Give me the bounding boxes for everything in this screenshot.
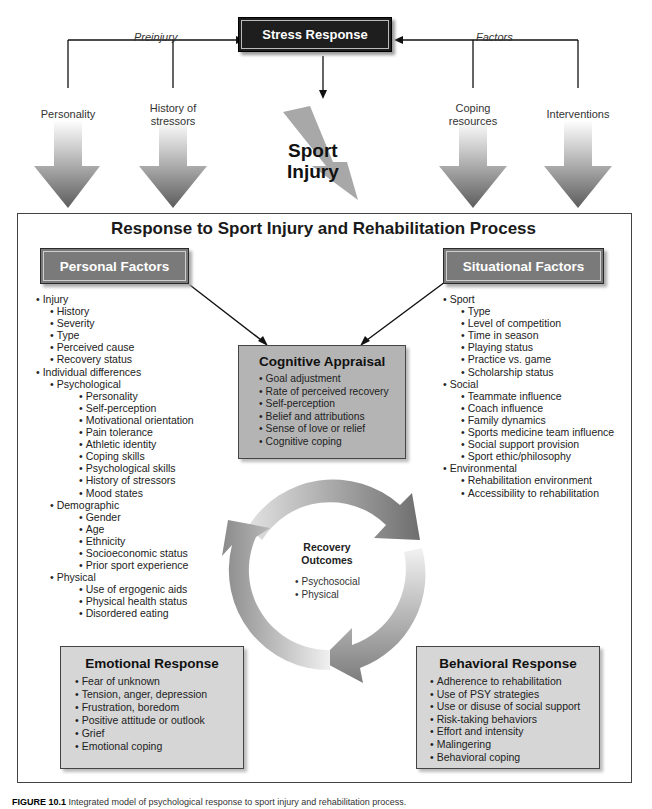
list-item: Type xyxy=(443,305,614,317)
behavioral-response-title: Behavioral Response xyxy=(417,656,599,671)
list-item: Self-perception xyxy=(259,398,405,411)
list-item: Practice vs. game xyxy=(443,353,614,365)
personal-factors-list: InjuryHistorySeverityTypePerceived cause… xyxy=(36,293,194,620)
list-item: Coping skills xyxy=(36,450,194,462)
situational-factors-label: Situational Factors xyxy=(446,251,601,281)
figure-caption-label: FIGURE 10.1 xyxy=(12,797,66,807)
figure-caption: FIGURE 10.1 Integrated model of psycholo… xyxy=(12,797,406,807)
list-item: Age xyxy=(36,523,194,535)
list-item: Scholarship status xyxy=(443,366,614,378)
list-item: Social support provision xyxy=(443,438,614,450)
list-item: Ethnicity xyxy=(36,535,194,547)
recovery-title-line1: Recovery xyxy=(285,541,369,554)
list-item: Accessibility to rehabilitation xyxy=(443,487,614,499)
list-item: Use of PSY strategies xyxy=(430,688,599,701)
list-item: Pain tolerance xyxy=(36,426,194,438)
list-item: Prior sport experience xyxy=(36,559,194,571)
list-item: Family dynamics xyxy=(443,414,614,426)
list-item: Adherence to rehabilitation xyxy=(430,675,599,688)
list-item: History of stressors xyxy=(36,474,194,486)
cognitive-appraisal-box: Cognitive Appraisal Goal adjustmentRate … xyxy=(238,345,406,459)
list-item: Goal adjustment xyxy=(259,373,405,386)
list-item: Social xyxy=(443,378,614,390)
list-item: Physical xyxy=(36,571,194,583)
list-item: Sport ethic/philosophy xyxy=(443,450,614,462)
list-item: Gender xyxy=(36,511,194,523)
list-item: Tension, anger, depression xyxy=(75,688,243,701)
list-item: Grief xyxy=(75,727,243,740)
list-item: Type xyxy=(36,329,194,341)
list-item: Use or disuse of social support xyxy=(430,700,599,713)
emotional-response-title: Emotional Response xyxy=(61,656,243,671)
list-item: Sense of love or relief xyxy=(259,423,405,436)
recovery-outcomes-list: PsychosocialPhysical xyxy=(295,575,360,601)
list-item: Risk-taking behaviors xyxy=(430,713,599,726)
list-item: Motivational orientation xyxy=(36,414,194,426)
list-item: Personality xyxy=(36,390,194,402)
list-item: Perceived cause xyxy=(36,341,194,353)
behavioral-response-box: Behavioral Response Adherence to rehabil… xyxy=(416,646,600,769)
list-item: Injury xyxy=(36,293,194,305)
list-item: Mood states xyxy=(36,487,194,499)
list-item: Socioeconomic status xyxy=(36,547,194,559)
list-item: Rate of perceived recovery xyxy=(259,386,405,399)
personal-factors-label: Personal Factors xyxy=(43,251,186,281)
list-item: Physical health status xyxy=(36,595,194,607)
list-item: Psychological skills xyxy=(36,462,194,474)
list-item: Environmental xyxy=(443,462,614,474)
list-item: Level of competition xyxy=(443,317,614,329)
situational-to-cognitive-line xyxy=(363,282,445,343)
recovery-title-line2: Outcomes xyxy=(285,554,369,567)
cognitive-appraisal-list: Goal adjustmentRate of perceived recover… xyxy=(259,373,405,448)
list-item: Frustration, boredom xyxy=(75,701,243,714)
behavioral-response-list: Adherence to rehabilitationUse of PSY st… xyxy=(430,675,599,763)
list-item: Sports medicine team influence xyxy=(443,426,614,438)
cognitive-appraisal-title: Cognitive Appraisal xyxy=(239,354,405,369)
list-item: Individual differences xyxy=(36,366,194,378)
list-item: Athletic identity xyxy=(36,438,194,450)
recovery-outcomes-title: Recovery Outcomes xyxy=(285,541,369,567)
emotional-response-list: Fear of unknownTension, anger, depressio… xyxy=(75,675,243,753)
list-item: Use of ergogenic aids xyxy=(36,583,194,595)
list-item: Psychological xyxy=(36,378,194,390)
situational-factors-list: SportTypeLevel of competitionTime in sea… xyxy=(443,293,614,499)
list-item: Severity xyxy=(36,317,194,329)
list-item: Emotional coping xyxy=(75,740,243,753)
list-item: Self-perception xyxy=(36,402,194,414)
list-item: Rehabilitation environment xyxy=(443,474,614,486)
list-item: Physical xyxy=(295,588,360,601)
personal-to-cognitive-line xyxy=(186,282,265,343)
list-item: Malingering xyxy=(430,738,599,751)
list-item: Demographic xyxy=(36,499,194,511)
list-item: Sport xyxy=(443,293,614,305)
list-item: Fear of unknown xyxy=(75,675,243,688)
list-item: Teammate influence xyxy=(443,390,614,402)
list-item: Positive attitude or outlook xyxy=(75,714,243,727)
list-item: Psychosocial xyxy=(295,575,360,588)
list-item: Disordered eating xyxy=(36,607,194,619)
situational-factors-box: Situational Factors xyxy=(443,248,604,284)
emotional-response-box: Emotional Response Fear of unknownTensio… xyxy=(60,646,244,769)
list-item: History xyxy=(36,305,194,317)
list-item: Recovery status xyxy=(36,353,194,365)
list-item: Belief and attributions xyxy=(259,411,405,424)
list-item: Effort and intensity xyxy=(430,725,599,738)
figure-caption-text: Integrated model of psychological respon… xyxy=(69,797,407,807)
cycle-arrow-right xyxy=(320,548,425,683)
personal-factors-box: Personal Factors xyxy=(40,248,189,284)
list-item: Time in season xyxy=(443,329,614,341)
list-item: Playing status xyxy=(443,341,614,353)
list-item: Coach influence xyxy=(443,402,614,414)
list-item: Behavioral coping xyxy=(430,751,599,764)
list-item: Cognitive coping xyxy=(259,436,405,449)
cycle-arrow-top xyxy=(248,479,420,540)
